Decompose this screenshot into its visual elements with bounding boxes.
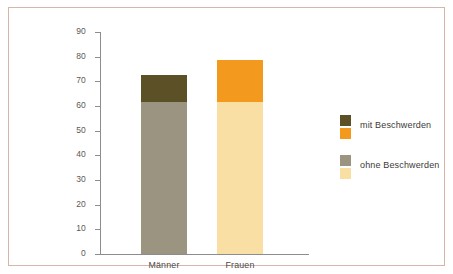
y-tick-90: 90 (95, 32, 100, 33)
y-tick-label-40: 40 (76, 149, 86, 160)
y-tick-50: 50 (95, 131, 100, 132)
y-tick-label-0: 0 (81, 248, 86, 259)
x-tick-label-maenner: Männer (124, 260, 204, 270)
y-tick-label-10: 10 (76, 223, 86, 234)
y-tick-label-60: 60 (76, 100, 86, 111)
y-tick-0: 0 (95, 254, 100, 255)
y-tick-label-20: 20 (76, 199, 86, 210)
y-axis-line (100, 32, 101, 254)
bar-segment-maenner-mit-beschwerden (141, 75, 187, 102)
legend-item-mit-beschwerden: mit Beschwerden (340, 115, 450, 149)
chart-legend: mit Beschwerden ohne Beschwerden (340, 115, 450, 189)
y-tick-label-30: 30 (76, 174, 86, 185)
x-tick-label-frauen: Frauen (200, 260, 280, 270)
legend-item-ohne-beschwerden: ohne Beschwerden (340, 155, 450, 189)
chart-figure: 90 80 70 60 50 40 30 20 (0, 0, 453, 274)
y-tick-80: 80 (95, 57, 100, 58)
y-tick-10: 10 (95, 229, 100, 230)
legend-swatch-group-ohne-beschwerden (340, 155, 351, 179)
bar-segment-frauen-ohne-beschwerden (217, 102, 263, 254)
legend-label-ohne-beschwerden: ohne Beschwerden (360, 160, 439, 170)
bar-maenner (141, 75, 187, 254)
bar-segment-maenner-ohne-beschwerden (141, 102, 187, 254)
y-tick-label-70: 70 (76, 75, 86, 86)
legend-swatch-frauen-ohne-beschwerden (340, 168, 351, 179)
y-tick-label-90: 90 (76, 26, 86, 37)
legend-swatch-frauen-mit-beschwerden (340, 128, 351, 139)
figure-border: 90 80 70 60 50 40 30 20 (8, 7, 445, 266)
y-tick-20: 20 (95, 205, 100, 206)
legend-swatch-maenner-ohne-beschwerden (340, 155, 351, 166)
plot-area: 90 80 70 60 50 40 30 20 (100, 32, 309, 254)
x-axis-line (100, 254, 309, 255)
y-tick-label-80: 80 (76, 51, 86, 62)
y-tick-30: 30 (95, 180, 100, 181)
legend-swatch-group-mit-beschwerden (340, 115, 351, 139)
y-tick-70: 70 (95, 81, 100, 82)
y-tick-label-50: 50 (76, 125, 86, 136)
bar-segment-frauen-mit-beschwerden (217, 60, 263, 102)
y-tick-60: 60 (95, 106, 100, 107)
y-tick-40: 40 (95, 155, 100, 156)
bar-frauen (217, 60, 263, 254)
legend-swatch-maenner-mit-beschwerden (340, 115, 351, 126)
legend-label-mit-beschwerden: mit Beschwerden (360, 120, 431, 130)
